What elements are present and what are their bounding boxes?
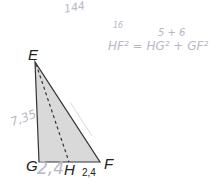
handwritten-top-note: 144 [63, 0, 86, 14]
vertex-label-g: G [26, 158, 38, 173]
handwritten-base-note: 2,4 [37, 160, 64, 177]
segment-hf-measure: 2,4 [82, 168, 96, 178]
vertex-label-f: F [104, 156, 113, 171]
handwritten-formula-main: HF² = HG² + GF² [108, 40, 208, 52]
vertex-label-e: E [28, 47, 38, 62]
handwritten-formula-small: 16 [113, 22, 123, 30]
vertex-label-h: H [64, 162, 75, 177]
triangle-egf [35, 62, 100, 162]
handwritten-formula-top: 5 + 6 [158, 28, 185, 38]
